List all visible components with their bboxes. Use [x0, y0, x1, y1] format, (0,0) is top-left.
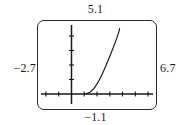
plotted-curve	[85, 29, 120, 95]
xmax-label: 6.7	[160, 62, 191, 74]
x-axis	[41, 92, 153, 97]
ymax-label: 5.1	[0, 3, 191, 15]
ymin-label: −1.1	[0, 111, 191, 123]
xmin-label: −2.7	[2, 62, 36, 74]
graphing-calculator-figure: 5.1 −1.1 −2.7 6.7	[0, 0, 191, 125]
plot-area	[37, 20, 157, 110]
y-axis	[69, 25, 74, 104]
